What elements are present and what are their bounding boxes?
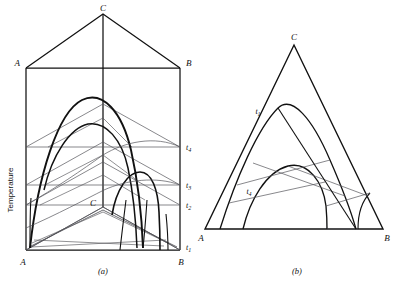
tie-b-4	[288, 166, 368, 196]
label-a-inner-C: C	[90, 198, 97, 208]
label-a-t3: t3	[186, 181, 191, 191]
dome-outer-path	[30, 98, 143, 248]
axis-title-temperature: Temperature	[6, 167, 15, 212]
phase-diagram-svg: A B C A B C t4 t3 t2 t1 Temperature (a)	[0, 0, 404, 299]
panel-b-group: C A B t1 t4 (b)	[197, 32, 390, 276]
panel-a-group: A B C A B C t4 t3 t2 t1 Temperature (a)	[6, 3, 192, 276]
prism-vertical-edges	[26, 14, 180, 250]
label-a-top-B: B	[186, 58, 192, 68]
label-a-top-C: C	[100, 3, 107, 13]
label-a-t1: t1	[186, 243, 191, 253]
figure-container: A B C A B C t4 t3 t2 t1 Temperature (a)	[0, 0, 404, 299]
ray-right	[278, 108, 356, 229]
triangle-outline	[205, 45, 383, 229]
label-b-t4: t4	[246, 187, 251, 197]
binodal-dome-outer	[30, 98, 143, 248]
label-a-base-A: A	[19, 257, 26, 267]
label-a-t4: t4	[186, 143, 191, 153]
label-b-t1: t1	[255, 107, 260, 117]
label-a-top-A: A	[14, 58, 21, 68]
label-b-B: B	[384, 233, 390, 243]
tie-t4-b	[103, 118, 132, 147]
label-b-A: A	[197, 233, 204, 243]
panel-b-rays	[278, 108, 356, 229]
caption-panel-b: (b)	[292, 266, 302, 276]
tie-lines	[31, 118, 168, 247]
fold-far-right	[166, 214, 168, 250]
tie-t1-a	[32, 212, 103, 243]
label-a-base-B: B	[178, 257, 184, 267]
fold-lines	[30, 198, 168, 250]
tie-b-1	[229, 182, 325, 203]
label-b-C: C	[291, 32, 298, 42]
label-a-t2: t2	[186, 201, 191, 211]
tie-b-2	[237, 160, 330, 185]
ternary-triangle	[205, 45, 383, 229]
floor-triangle-inner	[29, 210, 177, 247]
caption-panel-a: (a)	[98, 266, 108, 276]
